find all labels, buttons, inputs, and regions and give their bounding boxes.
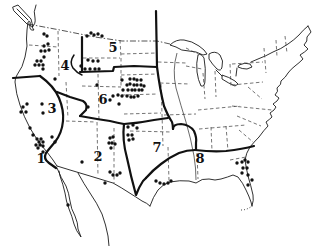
locality-dot-arizona-south — [103, 181, 106, 184]
locality-dot-pacific-northwest — [41, 63, 44, 66]
locality-dot-idaho-wyoming — [83, 67, 86, 70]
locality-dot-california-north — [25, 102, 28, 105]
baja-peninsula-coastline — [57, 168, 81, 237]
locality-dot-california-north — [41, 111, 44, 114]
locality-dot-colorado-front-range — [132, 95, 135, 98]
locality-dot-florida-georgia — [243, 158, 246, 161]
locality-dot-arizona-south — [115, 173, 118, 176]
locality-dot-pacific-northwest — [47, 48, 50, 51]
locality-dot-idaho-wyoming — [93, 67, 96, 70]
region3-north-boundary — [13, 76, 40, 78]
locality-dot-pacific-northwest — [33, 63, 36, 66]
locality-dot-texas-panhandle — [127, 138, 130, 141]
locality-dot-california-south — [38, 143, 41, 146]
locality-dot-colorado-front-range — [117, 102, 120, 105]
map-figure: 12345678 — [0, 0, 321, 246]
locality-dot-california-south — [34, 143, 37, 146]
locality-dot-colorado-front-range — [137, 88, 140, 91]
locality-dot-colorado-front-range — [128, 77, 131, 80]
locality-dot-texas-panhandle — [126, 125, 129, 128]
locality-dot-texas-panhandle — [131, 123, 134, 126]
locality-dot-pacific-northwest — [53, 77, 56, 80]
locality-dot-florida-georgia — [241, 166, 244, 169]
locality-dot-colorado-front-range — [132, 77, 135, 80]
locality-dot-pacific-northwest — [37, 63, 40, 66]
locality-dot-texas-panhandle — [135, 126, 138, 129]
locality-dot-california-south — [41, 144, 44, 147]
detroit-river — [216, 70, 222, 76]
locality-dot-california-north — [40, 102, 43, 105]
locality-dot-arizona-south — [80, 160, 83, 163]
locality-dot-california-central — [31, 133, 34, 136]
locality-dot-florida-georgia — [246, 173, 249, 176]
locality-dot-idaho-wyoming — [96, 59, 99, 62]
locality-dot-new-mexico — [113, 142, 116, 145]
locality-dot-texas-panhandle — [130, 133, 133, 136]
locality-dot-colorado-front-range — [135, 78, 138, 81]
locality-dot-pacific-northwest — [41, 67, 44, 70]
coastline-layer — [13, 5, 311, 246]
locality-dot-texas-panhandle — [126, 133, 129, 136]
locality-dot-idaho-wyoming — [86, 58, 89, 61]
locality-dot-colorado-front-range — [139, 78, 142, 81]
locality-dot-idaho-wyoming — [95, 83, 98, 86]
us-region-map: 12345678 — [0, 0, 321, 246]
locality-dot-arizona-south — [111, 173, 114, 176]
locality-dot-colorado-front-range — [135, 83, 138, 86]
locality-dot-colorado-front-range — [86, 105, 89, 108]
locality-dot-idaho-wyoming — [88, 67, 91, 70]
locality-dot-colorado-front-range — [136, 94, 139, 97]
locality-dot-colorado-front-range — [140, 88, 143, 91]
locality-dot-california-north — [24, 110, 27, 113]
locality-dot-pacific-northwest — [42, 55, 45, 58]
locality-dot-florida-georgia — [235, 161, 238, 164]
locality-dot-california-central — [28, 126, 31, 129]
locality-dot-california-south — [50, 135, 53, 138]
region-label-8: 8 — [195, 151, 204, 166]
locality-dot-pacific-northwest — [39, 59, 42, 62]
locality-dot-colorado-front-range — [116, 93, 119, 96]
locality-dot-colorado-front-range — [120, 78, 123, 81]
region6-south-boundary — [80, 116, 168, 124]
region-label-1: 1 — [36, 151, 45, 166]
lake-michigan — [197, 54, 206, 86]
locality-dot-florida-georgia — [240, 160, 243, 163]
locality-dot-colorado-front-range — [121, 88, 124, 91]
locality-dot-florida-georgia — [250, 178, 253, 181]
lake-huron — [209, 52, 223, 70]
mississippi-river — [174, 53, 196, 180]
locality-dot-california-south — [53, 140, 56, 143]
state-borders-layer — [29, 31, 287, 183]
locality-dot-texas-gulf-coast — [166, 181, 169, 184]
region5-east-boundary — [156, 11, 157, 67]
locality-dot-colorado-front-range — [126, 88, 129, 91]
locality-dot-pacific-northwest — [39, 49, 42, 52]
locality-dot-pacific-northwest — [35, 59, 38, 62]
locality-dot-new-mexico — [108, 136, 111, 139]
locality-dot-california-south — [35, 137, 38, 140]
locality-dot-new-mexico — [109, 146, 112, 149]
locality-dot-idaho-wyoming — [97, 67, 100, 70]
niagara-river — [236, 68, 237, 76]
locality-dot-texas-gulf-coast — [154, 179, 157, 182]
region-label-2: 2 — [93, 149, 102, 164]
locality-dot-new-mexico — [111, 135, 114, 138]
locality-dot-florida-georgia — [246, 160, 249, 163]
locality-dot-florida-georgia — [246, 183, 249, 186]
locality-dot-pacific-northwest — [45, 34, 48, 37]
locality-dot-florida-georgia — [245, 166, 248, 169]
locality-dot-idaho-wyoming — [91, 59, 94, 62]
locality-dot-arizona-south — [118, 171, 121, 174]
st-lawrence-border — [251, 26, 308, 62]
locality-dot-colorado-front-range — [133, 88, 136, 91]
locality-dot-california-south — [36, 146, 39, 149]
region-label-6: 6 — [98, 92, 107, 107]
locality-dot-colorado-front-range — [130, 88, 133, 91]
locality-dot-arizona-south — [108, 170, 111, 173]
locality-dot-montana — [96, 32, 99, 35]
locality-dot-california-south — [39, 137, 42, 140]
locality-dot-texas-panhandle — [131, 137, 134, 140]
locality-dot-california-south — [37, 140, 40, 143]
locality-dot-colorado-front-range — [125, 83, 128, 86]
atlantic-coastline — [245, 26, 311, 206]
